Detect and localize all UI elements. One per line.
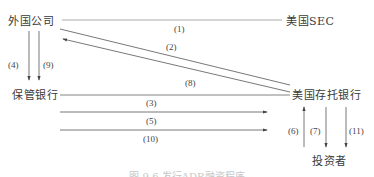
- node-us-sec: 美国SEC: [286, 12, 334, 28]
- flow-label-2: (2): [166, 42, 177, 52]
- figure-caption: 图 9-6 发行ADR融资程序: [0, 170, 374, 177]
- node-foreign-company: 外国公司: [8, 12, 54, 28]
- node-us-depositary-bank: 美国存托银行: [292, 86, 361, 102]
- flow-label-4: (4): [8, 60, 19, 70]
- node-investors: 投资者: [312, 152, 347, 168]
- node-custodian-bank: 保管银行: [12, 86, 58, 102]
- flow-label-9: (9): [43, 60, 54, 70]
- flow-line-2: [60, 29, 290, 85]
- flow-label-10: (10): [143, 134, 158, 144]
- flow-line-8: [63, 39, 290, 92]
- flow-label-7: (7): [310, 126, 321, 136]
- flow-label-11: (11): [349, 126, 364, 136]
- flow-label-1: (1): [174, 24, 185, 34]
- flow-label-8: (8): [185, 78, 196, 88]
- flow-label-3: (3): [146, 98, 157, 108]
- flow-label-5: (5): [146, 116, 157, 126]
- flow-label-6: (6): [288, 126, 299, 136]
